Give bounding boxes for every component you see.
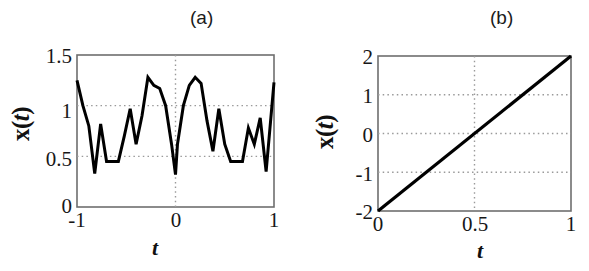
panel-b: (b) x(t) t 2 1 0 -1 -2 0 0.5 1 [295, 0, 589, 271]
panel-a-plot [0, 0, 295, 271]
panel-a: (a) x(t) t 1.5 1 0.5 0 -1 0 1 [0, 0, 295, 271]
panel-b-plot [295, 0, 589, 271]
figure-root: (a) x(t) t 1.5 1 0.5 0 -1 0 1 (b) x(t) t… [0, 0, 589, 271]
